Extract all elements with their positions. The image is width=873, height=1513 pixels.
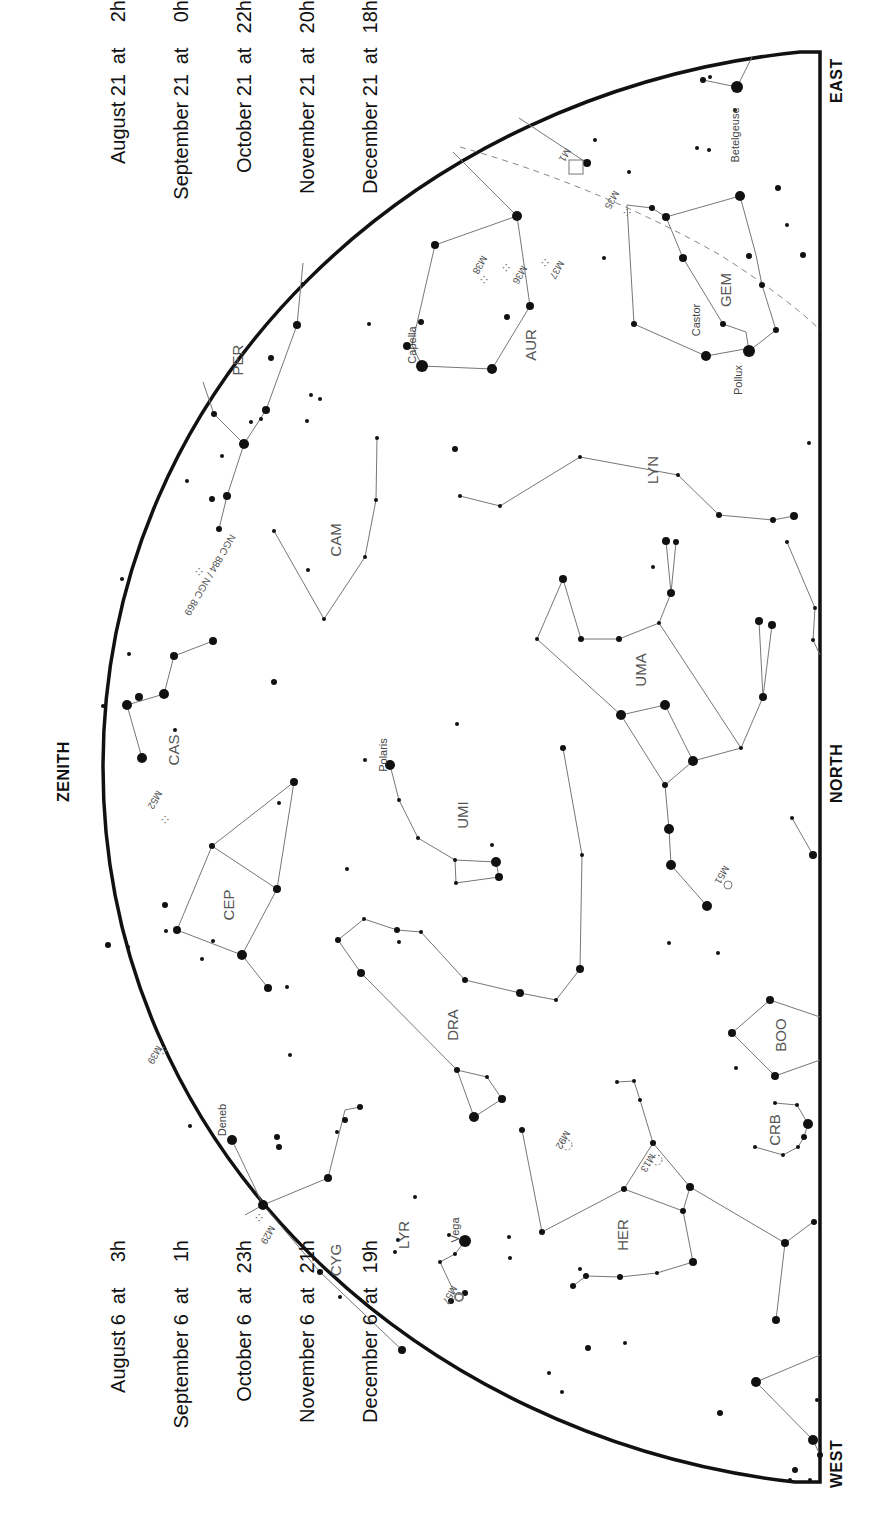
time-row: November 21at20h [297, 0, 318, 250]
direction-north: NORTH [828, 744, 846, 803]
time-row: September 21at0h [171, 0, 192, 250]
constellation-label: BOO [772, 1018, 789, 1051]
constellation-label: CEP [220, 890, 237, 921]
galaxy-icon-m51 [724, 881, 732, 889]
svg-text:⁘: ⁘ [621, 205, 633, 221]
star-name-label: Betelgeuse [729, 107, 741, 162]
star-name-label: Castor [690, 304, 702, 336]
constellation-label: PER [229, 345, 246, 376]
time-row: December 6at19h [360, 1240, 381, 1480]
star-name-label: Pollux [732, 365, 744, 395]
star-name-label: Polaris [377, 738, 389, 772]
time-row: November 6at21h [297, 1240, 318, 1480]
constellation-label: CAS [165, 735, 182, 766]
constellation-label: LYN [644, 456, 661, 484]
svg-text:⁘: ⁘ [500, 260, 512, 276]
star-name-label: Deneb [216, 1104, 228, 1136]
svg-text:⁘: ⁘ [159, 812, 171, 828]
time-row: August 21at2h [108, 0, 129, 250]
constellation-label: UMA [632, 653, 649, 686]
time-row: October 6at23h [234, 1240, 255, 1480]
observation-times-top: August 21at2h September 21at0h October 2… [66, 0, 402, 250]
star-name-label: Capella [406, 326, 418, 363]
direction-east: EAST [828, 58, 846, 103]
direction-zenith: ZENITH [55, 741, 73, 802]
constellation-label: CAM [327, 523, 344, 556]
constellation-label: AUR [522, 329, 539, 361]
svg-text:⁘: ⁘ [539, 255, 551, 271]
constellation-label: HER [614, 1219, 631, 1251]
time-row: August 6at3h [108, 1240, 129, 1480]
nebula-icon-m1 [569, 160, 583, 174]
constellation-label: UMI [454, 801, 471, 829]
star-name-label: Vega [449, 1217, 461, 1242]
constellation-label: DRA [444, 1009, 461, 1041]
time-row: October 21at22h [234, 0, 255, 250]
constellation-label: CRB [766, 1114, 783, 1146]
direction-west: WEST [828, 1440, 846, 1488]
time-row: September 6at1h [171, 1240, 192, 1480]
ecliptic-line [460, 147, 820, 330]
constellation-label: GEM [717, 273, 734, 307]
time-row: December 21at18h [360, 0, 381, 250]
observation-times-bottom: August 6at3h September 6at1h October 6at… [66, 1240, 402, 1480]
svg-text:⁘: ⁘ [253, 1210, 265, 1226]
